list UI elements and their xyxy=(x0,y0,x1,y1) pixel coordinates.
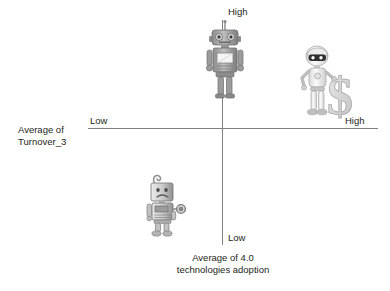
robot-with-dollar-sign-icon: $ xyxy=(297,42,357,120)
robot-standing-icon xyxy=(203,20,247,102)
robot-sad-windup-icon xyxy=(141,171,199,239)
y-axis-high-label: High xyxy=(228,6,248,17)
y-axis-title-line2: Turnover_3 xyxy=(18,136,66,148)
x-axis-line xyxy=(88,128,378,129)
x-axis-title: Average of 4.0 technologies adoption xyxy=(148,252,298,276)
y-axis-low-label: Low xyxy=(228,232,245,243)
x-axis-title-line2: technologies adoption xyxy=(148,264,298,276)
y-axis-title-line1: Average of xyxy=(18,124,66,136)
x-axis-title-line1: Average of 4.0 xyxy=(148,252,298,264)
y-axis-title: Average of Turnover_3 xyxy=(18,124,66,148)
x-axis-low-label: Low xyxy=(90,115,107,126)
quadrant-chart: High Low Low High Average of Turnover_3 … xyxy=(0,0,390,291)
